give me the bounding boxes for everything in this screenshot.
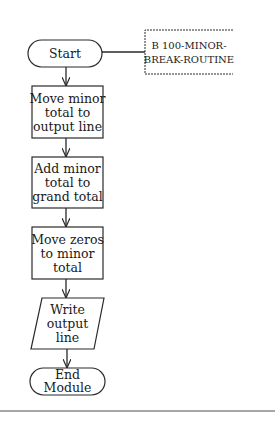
- move-minor-line-2: total to: [45, 105, 91, 120]
- add-minor-line-2: total to: [45, 175, 91, 190]
- write-output-line-1: Write: [50, 302, 85, 317]
- start-terminator: Start: [28, 40, 102, 67]
- annotation-line-1: B 100-MINOR-: [151, 40, 226, 51]
- start-label: Start: [49, 46, 81, 61]
- end-line-2: Module: [44, 380, 92, 395]
- io-write-output-line: Write output line: [31, 298, 104, 349]
- write-output-line-2: output: [47, 316, 89, 331]
- annotation-box: B 100-MINOR- BREAK-ROUTINE: [144, 30, 234, 74]
- process-move-zeros: Move zeros to minor total: [31, 227, 104, 279]
- end-terminator: End Module: [30, 367, 105, 395]
- move-minor-line-1: Move minor: [29, 91, 105, 106]
- process-move-minor-total: Move minor total to output line: [29, 86, 105, 138]
- move-minor-line-3: output line: [33, 119, 102, 134]
- add-minor-line-3: grand total: [32, 189, 102, 204]
- process-add-minor-total: Add minor total to grand total: [32, 157, 103, 208]
- move-zeros-line-2: to minor: [41, 246, 95, 261]
- write-output-line-3: line: [56, 330, 79, 345]
- flowchart: Start B 100-MINOR- BREAK-ROUTINE Move mi…: [0, 0, 275, 424]
- move-zeros-line-3: total: [53, 260, 82, 275]
- move-zeros-line-1: Move zeros: [31, 232, 104, 247]
- add-minor-line-1: Add minor: [33, 161, 100, 176]
- annotation-line-2: BREAK-ROUTINE: [144, 54, 234, 65]
